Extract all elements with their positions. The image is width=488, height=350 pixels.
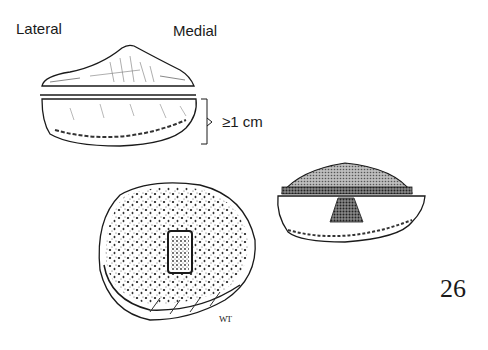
label-thickness: ≥1 cm [222,113,263,130]
patella-remnant-side-view [40,95,196,146]
figure-number: 26 [440,274,466,304]
label-lateral: Lateral [16,20,62,37]
patella-articular-surface-profile [42,45,194,86]
thickness-bracket [201,99,212,144]
patella-cut-surface-with-slot [99,183,255,320]
illustration-canvas [0,0,488,350]
label-medial: Medial [173,22,217,39]
patella-with-button-implant [278,163,425,242]
artist-signature: WT [219,314,231,324]
